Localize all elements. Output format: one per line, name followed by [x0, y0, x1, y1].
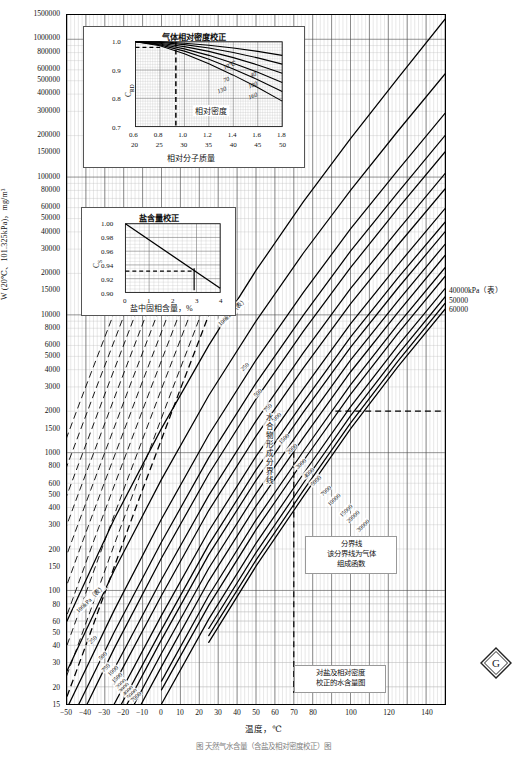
- inset-density-y-tick: 0.8: [112, 95, 121, 103]
- y-axis-tick: 600000: [0, 65, 60, 73]
- hydrate-boundary-label: 水合物形成分界线: [263, 413, 274, 485]
- inset-mass-x-tick: 30: [180, 141, 187, 149]
- y-axis-tick: 20: [0, 684, 60, 692]
- inset-mass-x-tick: 45: [254, 141, 261, 149]
- y-axis-tick: 500: [0, 491, 60, 499]
- y-axis-tick: 200000: [0, 131, 60, 139]
- callout-line: 组成函数: [309, 559, 393, 569]
- inset-density-x-label-top: 相对密度: [193, 105, 229, 116]
- inset-mass-x-tick: 20: [131, 141, 138, 149]
- right-pressure-label: 40000kPa（表）: [449, 286, 503, 296]
- inset-density-x-label-bottom: 相对分子质量: [167, 152, 215, 163]
- inset-salt-x-tick: 4: [219, 297, 223, 305]
- pressure-curve: [114, 255, 445, 704]
- inset-mass-x-tick: 35: [205, 141, 212, 149]
- x-axis-tick: 80: [300, 708, 326, 717]
- inset-density-x-tick: 1.8: [277, 131, 286, 139]
- y-axis-tick: 30: [0, 659, 60, 667]
- y-axis-tick: 1500000: [0, 10, 60, 18]
- svg-text:G: G: [492, 657, 500, 669]
- y-axis-tick: 100: [0, 587, 60, 595]
- y-axis-tick: 5000: [0, 352, 60, 360]
- inset-density-x-tick: 1.6: [252, 131, 261, 139]
- y-axis-tick: 40000: [0, 228, 60, 236]
- callout-line: 分界线: [309, 539, 393, 549]
- y-axis-tick: 50000: [0, 214, 60, 222]
- inset-density-y-tick: 1.0: [112, 38, 121, 46]
- y-axis-tick: 150000: [0, 148, 60, 156]
- inset-salt-y-tick: 0.96: [101, 248, 113, 256]
- y-axis-tick: 8000: [0, 324, 60, 332]
- inset-density-x-tick: 0.6: [129, 131, 138, 139]
- x-axis-tick: 100: [338, 708, 364, 717]
- y-axis-tick: 80: [0, 601, 60, 609]
- y-axis-tick: 2000: [0, 407, 60, 415]
- x-axis-tick-labels: −50−40−30−20−100102030405060708010012014…: [0, 708, 527, 722]
- y-axis-tick: 1500: [0, 425, 60, 433]
- y-axis-tick: 200: [0, 546, 60, 554]
- water-content-chart-figure: 1500000100000080000060000050000040000030…: [0, 0, 527, 759]
- y-axis-tick-labels: 1500000100000080000060000050000040000030…: [0, 0, 66, 691]
- inset-salt-y-tick: 0.90: [101, 290, 113, 298]
- inset-salt-x-tick: 0: [123, 297, 127, 305]
- x-axis-tick: 120: [376, 708, 402, 717]
- gas-processors-logo-icon: G: [479, 646, 513, 680]
- inset-salt-y-tick: 1.00: [101, 220, 113, 228]
- boundary-note-callout: 分界线该分界线为气体组成函数: [305, 536, 397, 574]
- y-axis-tick: 10000: [0, 311, 60, 319]
- right-pressure-label: 60000: [449, 305, 503, 315]
- inset-gas-relative-density-correction: 气体相对密度校正 CRD 1.00.90.80.7 0.60.81.01.21.…: [83, 26, 305, 168]
- y-axis-tick: 800: [0, 462, 60, 470]
- x-axis-title: 温度，℃: [0, 722, 527, 734]
- y-axis-tick: 600: [0, 480, 60, 488]
- inset-mass-x-tick: 25: [156, 141, 163, 149]
- y-axis-tick: 400: [0, 504, 60, 512]
- y-axis-tick: 4000: [0, 366, 60, 374]
- y-axis-tick: 1000: [0, 449, 60, 457]
- y-axis-tick: 400000: [0, 89, 60, 97]
- inset-mass-x-tick: 50: [279, 141, 286, 149]
- y-axis-tick: 50: [0, 629, 60, 637]
- x-axis-tick: 140: [414, 708, 440, 717]
- inset-density-x-tick: 1.2: [203, 131, 212, 139]
- y-axis-tick: 300000: [0, 107, 60, 115]
- y-axis-tick: 40: [0, 642, 60, 650]
- y-axis-tick: 500000: [0, 76, 60, 84]
- y-axis-tick: 150: [0, 563, 60, 571]
- y-axis-tick: 60: [0, 618, 60, 626]
- inset-salt-x-tick: 3: [195, 297, 199, 305]
- y-axis-tick: 60000: [0, 203, 60, 211]
- inset-salt-content-correction: 盐含量校正 CS 1.000.980.960.940.920.90 01234 …: [81, 207, 236, 316]
- y-axis-title: W (20℃、101.325kPa)，mg/m³: [0, 100, 9, 300]
- callout-line: 校正的水含量图: [298, 678, 382, 688]
- y-axis-tick: 15000: [0, 286, 60, 294]
- y-axis-tick: 1000000: [0, 34, 60, 42]
- y-axis-tick: 100000: [0, 173, 60, 181]
- inset-salt-x-label: 盐中固相含量，%: [130, 302, 193, 313]
- inset-density-y-tick: 0.9: [112, 67, 121, 75]
- right-side-pressure-labels: 40000kPa（表）5000060000: [449, 286, 503, 315]
- inset-density-y-label: CRD: [124, 84, 135, 97]
- y-axis-tick: 80000: [0, 186, 60, 194]
- corrected-chart-note-callout: 对盐及相对密度校正的水含量图: [294, 665, 386, 693]
- y-axis-tick: 30000: [0, 245, 60, 253]
- inset-salt-y-tick: 0.98: [101, 234, 113, 242]
- inset-density-x-tick: 1.0: [178, 131, 187, 139]
- right-pressure-label: 50000: [449, 296, 503, 306]
- figure-caption: 图 天然气水含量（含盐及相对密度校正）图: [0, 740, 527, 751]
- inset-salt-y-tick: 0.94: [101, 262, 113, 270]
- y-axis-tick: 6000: [0, 341, 60, 349]
- inset-salt-y-tick: 0.92: [101, 276, 113, 284]
- inset-density-x-tick: 1.4: [228, 131, 237, 139]
- inset-density-y-tick: 0.7: [112, 124, 121, 132]
- callout-line: 该分界线为气体: [309, 549, 393, 559]
- y-axis-tick: 3000: [0, 383, 60, 391]
- y-axis-tick: 20000: [0, 269, 60, 277]
- y-axis-tick: 300: [0, 521, 60, 529]
- y-axis-tick: 800000: [0, 48, 60, 56]
- callout-line: 对盐及相对密度: [298, 668, 382, 678]
- inset-density-x-tick: 0.8: [154, 131, 163, 139]
- inset-mass-x-tick: 40: [230, 141, 237, 149]
